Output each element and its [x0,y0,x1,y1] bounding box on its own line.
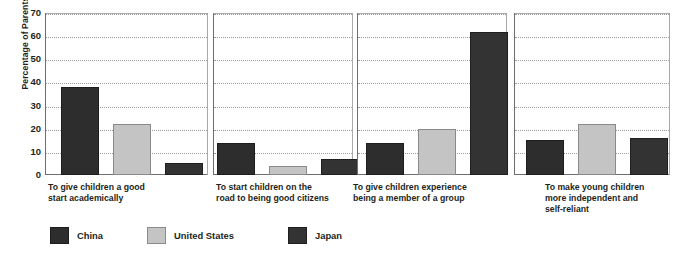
bar-group [515,14,669,175]
y-tick-label-20: 20 [30,124,41,134]
bar-us-panel4 [578,124,616,175]
bar-us-panel1 [113,124,151,175]
y-tick-label-50: 50 [30,55,41,65]
y-tick-label-30: 30 [30,101,41,111]
bar-japan-panel2 [321,159,359,175]
bar-china-panel3 [366,143,404,175]
legend-label-china: China [77,230,103,241]
chart-legend: ChinaUnited StatesJapan [50,227,342,244]
bar-japan-panel4 [630,138,668,175]
category-label-1: To give children a goodstart academicall… [48,182,145,204]
y-tick-label-0: 0 [36,170,41,180]
category-label-line: more independent and [545,193,644,204]
bar-group [358,14,506,175]
y-tick-label-40: 40 [30,78,41,88]
legend-swatch-us [147,227,166,244]
legend-label-us: United States [174,230,234,241]
bar-us-panel2 [269,166,307,175]
bar-chart-figure: Percentage of Parents Agreeing 010203040… [0,0,674,253]
legend-label-japan: Japan [315,230,342,241]
bar-japan-panel3 [470,32,508,175]
category-label-4: To make young childrenmore independent a… [545,182,644,216]
category-label-line: To give children a good [48,182,145,193]
category-label-line: To give children experience [353,182,467,193]
y-tick-label-60: 60 [30,31,41,41]
chart-panel-4 [514,13,670,175]
chart-panel-3 [357,13,507,175]
bar-china-panel1 [61,87,99,175]
bar-group [46,14,207,175]
y-tick-label-10: 10 [30,147,41,157]
y-tick-label-70: 70 [30,8,41,18]
chart-panel-2 [213,13,353,175]
category-label-line: To start children on the [216,182,329,193]
category-label-line: road to being good citizens [216,193,329,204]
legend-swatch-china [50,227,69,244]
category-label-3: To give children experiencebeing a membe… [353,182,467,204]
category-label-2: To start children on theroad to being go… [216,182,329,204]
y-axis-tick-labels: 010203040506070 [19,13,41,175]
category-label-line: self-reliant [545,204,644,215]
category-label-line: start academically [48,193,145,204]
legend-item-japan[interactable]: Japan [288,227,342,244]
category-label-line: being a member of a group [353,193,467,204]
chart-panel-1 [45,13,208,175]
legend-item-us[interactable]: United States [147,227,234,244]
bar-china-panel4 [526,140,564,175]
bar-group [214,14,352,175]
bar-china-panel2 [217,143,255,175]
bar-japan-panel1 [165,163,203,175]
legend-item-china[interactable]: China [50,227,103,244]
category-label-line: To make young children [545,182,644,193]
legend-swatch-japan [288,227,307,244]
bar-us-panel3 [418,129,456,175]
